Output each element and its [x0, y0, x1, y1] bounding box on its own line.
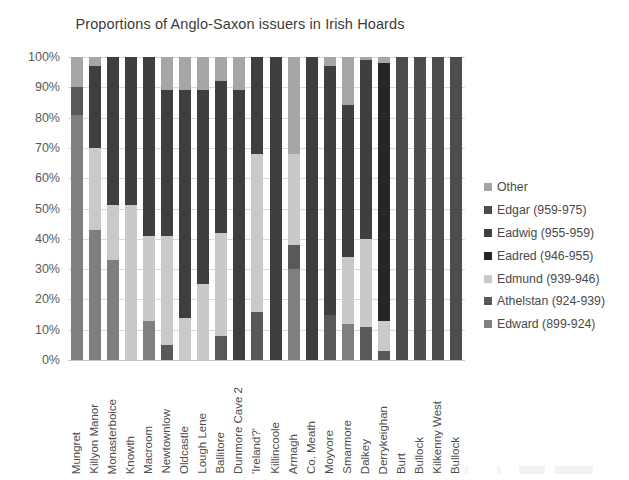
bar[interactable] [107, 57, 119, 360]
bar-segment [143, 236, 155, 321]
x-axis-tick-label: Newtownlow [160, 409, 172, 474]
legend-item-label: Edmund (939-946) [497, 272, 600, 286]
bar-segment [396, 57, 408, 360]
x-axis-tick-label: Bullock [413, 437, 425, 474]
bar-segment [288, 269, 300, 360]
legend-item-label: Edward (899-924) [497, 317, 595, 331]
bar[interactable] [215, 57, 227, 360]
bar-segment [324, 315, 336, 360]
plot-area [68, 57, 465, 360]
bar-segment [143, 57, 155, 236]
bar[interactable] [414, 57, 426, 360]
bar[interactable] [342, 57, 354, 360]
bar[interactable] [89, 57, 101, 360]
bar[interactable] [251, 57, 263, 360]
legend-item[interactable]: Edgar (959-975) [484, 199, 626, 222]
bar-segment [324, 66, 336, 314]
legend-swatch-icon [484, 229, 492, 237]
bar-segment [360, 327, 372, 360]
legend-item[interactable]: Athelstan (924-939) [484, 290, 626, 313]
bar-segment [251, 312, 263, 360]
legend-item[interactable]: Eadwig (955-959) [484, 222, 626, 245]
bar[interactable] [360, 57, 372, 360]
bar-segment [161, 236, 173, 345]
bar-segment [306, 57, 318, 360]
x-axis-tick-label: Killyon Manor [88, 404, 100, 474]
bar-segment [107, 57, 119, 205]
bar-segment [161, 90, 173, 235]
x-axis-labels: MungretKillyon ManorMonasterboiceKnowthM… [68, 364, 465, 474]
y-axis-tick-label: 10% [14, 323, 60, 337]
bar-segment [378, 351, 390, 360]
bar[interactable] [378, 57, 390, 360]
bar-segment [197, 57, 209, 90]
x-axis-tick-label: Lough Lene [196, 413, 208, 474]
legend-item-label: Athelstan (924-939) [497, 294, 605, 308]
bar-segment [342, 257, 354, 324]
legend-item-label: Edgar (959-975) [497, 203, 587, 217]
bar-segment [360, 60, 372, 239]
y-axis-tick-label: 40% [14, 232, 60, 246]
bar-segment [414, 57, 426, 360]
legend-item[interactable]: Eadred (946-955) [484, 244, 626, 267]
bar[interactable] [396, 57, 408, 360]
bar[interactable] [233, 57, 245, 360]
legend-swatch-icon [484, 252, 492, 260]
bar-segment [107, 260, 119, 360]
bar[interactable] [125, 57, 137, 360]
x-axis-tick-label: Dalkey [359, 439, 371, 474]
chart-legend: OtherEdgar (959-975)Eadwig (955-959)Eadr… [484, 176, 626, 336]
legend-swatch-icon [484, 183, 492, 191]
bar[interactable] [432, 57, 444, 360]
bar[interactable] [288, 57, 300, 360]
legend-swatch-icon [484, 297, 492, 305]
x-axis-tick-label: Smarmore [341, 420, 353, 474]
x-axis-tick-label: Dunmore Cave 2 [232, 387, 244, 474]
bar[interactable] [197, 57, 209, 360]
bar-segment [125, 57, 137, 205]
x-axis-tick-label: Derrykeighan [377, 406, 389, 474]
bar[interactable] [143, 57, 155, 360]
bar-segment [378, 63, 390, 321]
bar-segment [179, 90, 191, 317]
legend-item-label: Other [497, 180, 528, 194]
legend-item[interactable]: Edmund (939-946) [484, 267, 626, 290]
bar[interactable] [71, 57, 83, 360]
bar[interactable] [306, 57, 318, 360]
bar-segment [161, 57, 173, 90]
bar[interactable] [450, 57, 462, 360]
y-axis-tick-label: 20% [14, 292, 60, 306]
x-axis-tick-label: Ballitore [214, 432, 226, 474]
bar-segment [233, 90, 245, 360]
bar-segment [89, 148, 101, 230]
bar-segment [143, 321, 155, 360]
bar-segment [342, 57, 354, 105]
bar-segment [342, 324, 354, 360]
y-axis-tick-label: 30% [14, 262, 60, 276]
bar-segment [71, 115, 83, 360]
x-axis-tick-label: Oldcastle [178, 426, 190, 474]
y-axis-tick-label: 90% [14, 80, 60, 94]
bar-segment [432, 57, 444, 360]
bar-segment [450, 57, 462, 360]
bar-segment [288, 57, 300, 154]
x-axis-tick-label: Macroom [142, 426, 154, 474]
bar-segment [215, 233, 227, 336]
bar[interactable] [161, 57, 173, 360]
bar[interactable] [179, 57, 191, 360]
x-axis-tick-label: Mungret [70, 432, 82, 474]
y-axis-tick-label: 100% [14, 50, 60, 64]
bar-segment [197, 284, 209, 360]
y-axis-tick-label: 80% [14, 111, 60, 125]
y-axis-tick-label: 0% [14, 353, 60, 367]
bar-segment [324, 57, 336, 66]
bar[interactable] [324, 57, 336, 360]
y-axis-tick-label: 70% [14, 141, 60, 155]
legend-item[interactable]: Other [484, 176, 626, 199]
bar[interactable] [270, 57, 282, 360]
bar-segment [215, 81, 227, 233]
bar-segment [197, 90, 209, 284]
bar-segment [288, 245, 300, 269]
legend-item[interactable]: Edward (899-924) [484, 313, 626, 336]
bar-segment [215, 336, 227, 360]
